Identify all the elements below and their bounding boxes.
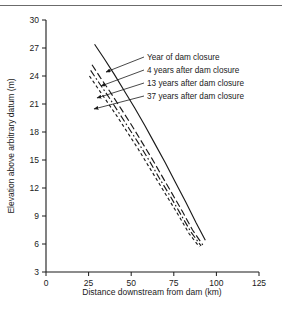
annotation-label: Year of dam closure: [147, 53, 220, 62]
x-axis-ticks: 0255075100125: [44, 272, 267, 288]
annotation-label: 37 years after dam closure: [147, 92, 244, 101]
x-axis-title: Distance downstream from dam (km): [82, 287, 222, 297]
y-tick-label: 3: [34, 267, 39, 277]
y-tick-label: 24: [30, 71, 40, 81]
x-tick-label: 0: [44, 278, 49, 288]
y-tick-label: 6: [34, 239, 39, 249]
y-axis-ticks: 36912151821242730: [30, 15, 46, 277]
y-tick-label: 21: [30, 99, 40, 109]
y-tick-label: 27: [30, 43, 40, 53]
y-axis-title: Elevation above arbitrary datum (m): [6, 78, 16, 213]
y-tick-label: 9: [34, 211, 39, 221]
y-tick-label: 12: [30, 183, 40, 193]
annotation-leader: [106, 57, 144, 72]
y-tick-label: 18: [30, 127, 40, 137]
chart-canvas: 36912151821242730 0255075100125 Year of …: [0, 0, 282, 320]
annotation-label: 4 years after dam closure: [147, 66, 240, 75]
series-line-37-years-after-dam-closure: [89, 76, 199, 247]
annotation-label: 13 years after dam closure: [147, 79, 244, 88]
y-tick-label: 30: [30, 15, 40, 25]
annotation-leader: [101, 70, 144, 86]
annotation-leader: [94, 96, 144, 109]
y-tick-label: 15: [30, 155, 40, 165]
figure-container: 36912151821242730 0255075100125 Year of …: [0, 0, 282, 320]
x-tick-label: 125: [252, 278, 266, 288]
annotation-layer: Year of dam closure4 years after dam clo…: [94, 53, 244, 109]
